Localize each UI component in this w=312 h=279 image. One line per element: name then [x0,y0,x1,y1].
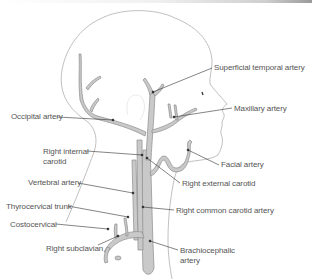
leader-vertebral [78,183,133,193]
leader-facial [188,150,219,165]
external-carotid-artery [146,93,155,160]
nose-detail [202,92,203,95]
label-right-internal-carotid-line2: carotid [43,157,66,166]
leader-internal-carotid [87,151,142,155]
label-superficial-temporal-artery: Superficial temporal artery [214,63,305,72]
occipital-branch-2 [90,98,99,112]
label-brachiocephalic-line2: artery [180,256,200,265]
occipital-branch [86,76,101,90]
label-thyrocervical-trunk: Thyrocervical trunk [6,202,72,211]
label-right-common-carotid-artery: Right common carotid artery [176,206,274,215]
thyrocervical-branch-2 [114,224,117,238]
facial-artery [150,140,192,176]
label-right-subclavian: Right subclavian [46,244,103,253]
back-of-head-outline [61,19,100,222]
label-vertebral-artery: Vertebral artery [28,178,81,187]
maxillary-branch-2 [168,104,172,118]
label-facial-artery: Facial artery [221,160,264,169]
leader-brachiocephalic [150,241,178,250]
label-brachiocephalic-line1: Brachiocephalic [180,246,235,255]
maxillary-branch [152,108,197,133]
label-maxillary-artery: Maxillary artery [234,104,287,113]
label-right-internal-carotid-line1: Right internal [43,147,89,156]
anatomy-illustration [0,0,312,279]
label-right-external-carotid: Right external carotid [182,179,255,188]
ear-outline [127,95,145,120]
common-carotid-artery [142,150,154,274]
superficial-temporal-branch [143,78,153,95]
leader-thyrocervical [68,206,128,217]
subclavian-stub [115,256,121,260]
leader-costocervical [56,224,108,229]
leader-superficial-temporal [153,68,212,92]
label-costocervical: Costocervical [10,220,57,229]
label-occipital-artery: Occipital artery [11,112,63,121]
